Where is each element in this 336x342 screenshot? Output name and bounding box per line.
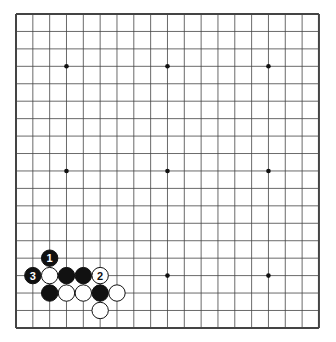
- white-stone: [75, 285, 91, 301]
- star-point: [266, 273, 271, 278]
- black-stone: [75, 267, 91, 283]
- black-stone: 3: [25, 267, 41, 283]
- black-stone: [41, 285, 57, 301]
- white-stone: [41, 267, 57, 283]
- star-point: [165, 169, 170, 174]
- go-board: 132: [0, 0, 336, 342]
- white-stone: 2: [92, 267, 108, 283]
- star-point: [266, 169, 271, 174]
- black-stone: 1: [41, 250, 57, 266]
- star-point: [165, 273, 170, 278]
- stones: 132: [25, 250, 126, 319]
- star-point: [266, 64, 271, 69]
- black-stone: [92, 285, 108, 301]
- white-stone: [58, 285, 74, 301]
- white-stone: [109, 285, 125, 301]
- star-point: [64, 64, 69, 69]
- star-point: [64, 169, 69, 174]
- move-number-label: 3: [30, 270, 36, 282]
- move-number-label: 1: [47, 252, 53, 264]
- star-point: [165, 64, 170, 69]
- black-stone: [58, 267, 74, 283]
- move-number-label: 2: [97, 270, 103, 282]
- white-stone: [92, 302, 108, 318]
